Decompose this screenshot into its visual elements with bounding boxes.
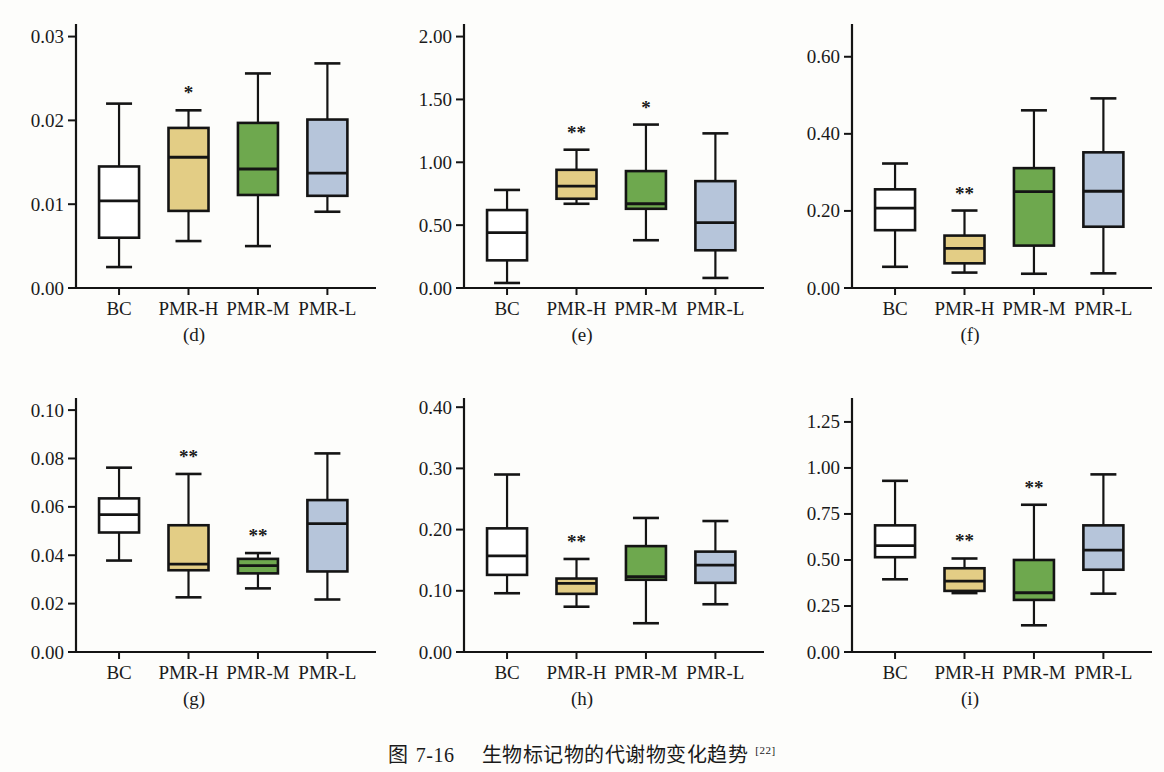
box-rect [626, 546, 666, 580]
x-tick-label-PMR-M: PMR-M [1002, 298, 1065, 319]
x-tick-label-PMR-L: PMR-L [1074, 298, 1132, 319]
y-tick-label: 0.00 [419, 642, 452, 663]
x-tick-label-PMR-L: PMR-L [1074, 662, 1132, 683]
x-tick-label-PMR-M: PMR-M [226, 662, 289, 683]
y-tick-label: 0.60 [807, 46, 840, 67]
box-rect [1014, 168, 1054, 245]
x-tick-label-PMR-H: PMR-H [546, 298, 606, 319]
panel-e: 0.000.501.001.502.00BC**PMR-H*PMR-MPMR-L… [388, 0, 776, 380]
y-tick-label: 0.10 [31, 400, 64, 421]
box-group-BC: BC [487, 190, 527, 319]
panel-h: 0.000.100.200.300.40BC**PMR-HPMR-MPMR-L(… [388, 380, 776, 730]
panel-d: 0.000.010.020.03BC*PMR-HPMR-MPMR-L(d) [0, 0, 388, 380]
figure-caption: 图 7-16 生物标记物的代谢物变化趋势 [22] [0, 739, 1164, 768]
y-tick-label: 0.02 [31, 593, 64, 614]
y-tick-label: 1.00 [807, 457, 840, 478]
x-tick-label-PMR-L: PMR-L [686, 662, 744, 683]
y-tick-label: 0.04 [31, 545, 65, 566]
y-tick-label: 0.01 [31, 194, 64, 215]
y-tick-label: 0.08 [31, 448, 64, 469]
panel-label: (h) [388, 688, 776, 710]
box-group-BC: BC [99, 468, 139, 683]
x-tick-label-BC: BC [882, 662, 907, 683]
x-tick-label-PMR-L: PMR-L [298, 298, 356, 319]
boxplot-h: 0.000.100.200.300.40BC**PMR-HPMR-MPMR-L [388, 380, 776, 730]
boxplot-f: 0.000.200.400.60BC**PMR-HPMR-MPMR-L [776, 0, 1164, 380]
box-group-PMR-M: **PMR-M [226, 525, 289, 683]
significance-marker: ** [955, 530, 974, 551]
x-tick-label-PMR-M: PMR-M [1002, 662, 1065, 683]
box-group-PMR-H: **PMR-H [934, 183, 994, 319]
y-tick-label: 0.50 [807, 549, 840, 570]
x-tick-label-BC: BC [106, 298, 131, 319]
box-rect [695, 181, 735, 250]
y-tick-label: 2.00 [419, 26, 452, 47]
y-tick-label: 0.02 [31, 110, 64, 131]
x-tick-label-PMR-M: PMR-M [226, 298, 289, 319]
significance-marker: ** [1024, 477, 1043, 498]
panel-label: (e) [388, 324, 776, 346]
caption-prefix: 图 [388, 743, 409, 767]
boxplot-e: 0.000.501.001.502.00BC**PMR-H*PMR-MPMR-L [388, 0, 776, 380]
box-group-PMR-H: **PMR-H [546, 122, 606, 319]
panel-label: (g) [0, 688, 388, 710]
y-tick-label: 0.00 [31, 642, 64, 663]
x-tick-label-PMR-L: PMR-L [686, 298, 744, 319]
caption-reference: [22] [755, 744, 775, 756]
box-group-PMR-L: PMR-L [298, 63, 356, 319]
box-rect [557, 170, 597, 199]
box-group-PMR-M: *PMR-M [614, 97, 677, 319]
significance-marker: * [184, 82, 194, 103]
box-rect [1083, 152, 1123, 226]
box-rect [238, 123, 278, 195]
x-tick-label-PMR-M: PMR-M [614, 298, 677, 319]
significance-marker: ** [567, 531, 586, 552]
panel-i: 0.000.250.500.751.001.25BC**PMR-H**PMR-M… [776, 380, 1164, 730]
box-rect [487, 528, 527, 575]
significance-marker: ** [955, 183, 974, 204]
figure-grid: 0.000.010.020.03BC*PMR-HPMR-MPMR-L(d)0.0… [0, 0, 1164, 772]
y-tick-label: 0.40 [807, 123, 840, 144]
significance-marker: ** [248, 525, 267, 546]
x-tick-label-PMR-H: PMR-H [934, 298, 994, 319]
y-tick-label: 0.40 [419, 397, 452, 418]
box-rect [875, 189, 915, 230]
y-tick-label: 0.00 [807, 278, 840, 299]
x-tick-label-BC: BC [882, 298, 907, 319]
x-tick-label-PMR-H: PMR-H [158, 298, 218, 319]
box-group-BC: BC [99, 104, 139, 319]
y-tick-label: 0.03 [31, 26, 64, 47]
y-tick-label: 0.30 [419, 458, 452, 479]
x-tick-label-PMR-H: PMR-H [934, 662, 994, 683]
box-rect [945, 568, 985, 591]
box-rect [695, 552, 735, 583]
x-tick-label-PMR-L: PMR-L [298, 662, 356, 683]
box-group-PMR-M: PMR-M [226, 73, 289, 319]
box-rect [875, 525, 915, 557]
significance-marker: * [641, 97, 651, 118]
boxplot-g: 0.000.020.040.060.080.10BC**PMR-H**PMR-M… [0, 380, 388, 730]
box-rect [1083, 525, 1123, 569]
boxplot-i: 0.000.250.500.751.001.25BC**PMR-H**PMR-M… [776, 380, 1164, 730]
y-tick-label: 0.00 [31, 278, 64, 299]
box-group-PMR-L: PMR-L [298, 453, 356, 683]
y-tick-label: 0.00 [419, 278, 452, 299]
y-tick-label: 0.00 [807, 642, 840, 663]
y-tick-label: 0.20 [807, 200, 840, 221]
significance-marker: ** [567, 122, 586, 143]
panel-label: (d) [0, 324, 388, 346]
box-group-BC: BC [875, 164, 915, 319]
box-rect [487, 210, 527, 260]
x-tick-label-BC: BC [494, 298, 519, 319]
box-group-PMR-H: **PMR-H [546, 531, 606, 683]
y-tick-label: 1.25 [807, 411, 840, 432]
caption-number: 7-16 [416, 744, 455, 766]
y-tick-label: 0.10 [419, 580, 452, 601]
y-tick-label: 0.25 [807, 595, 840, 616]
y-tick-label: 0.75 [807, 503, 840, 524]
x-tick-label-PMR-H: PMR-H [546, 662, 606, 683]
box-group-PMR-H: **PMR-H [158, 446, 218, 683]
box-group-PMR-L: PMR-L [1074, 98, 1132, 319]
x-tick-label-BC: BC [494, 662, 519, 683]
panel-label: (i) [776, 688, 1164, 710]
